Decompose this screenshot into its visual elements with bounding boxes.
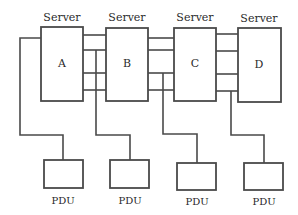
pdu-1-label: PDU (51, 195, 74, 206)
pdu-4-label: PDU (252, 196, 275, 207)
pdu-1: PDU (44, 160, 83, 206)
server-c-header: Server (176, 11, 214, 24)
pdu-2: PDU (110, 160, 149, 206)
pdu-3-box (177, 163, 216, 190)
pdu-3: PDU (177, 163, 216, 207)
server-b-label: B (123, 57, 131, 70)
interconnects-c-d (216, 34, 238, 91)
pdu-2-label: PDU (118, 195, 141, 206)
server-d-label: D (255, 58, 264, 71)
server-a-label: A (57, 57, 67, 70)
server-b-header: Server (108, 11, 146, 24)
server-c: Server C (174, 11, 216, 101)
pdu-4: PDU (244, 163, 283, 207)
interconnects-a-b (83, 35, 106, 90)
pdu-3-label: PDU (185, 196, 208, 207)
interconnects-b-c (148, 38, 174, 90)
server-c-label: C (191, 57, 199, 70)
server-a-header: Server (43, 11, 81, 24)
pdu-2-box (110, 160, 149, 188)
server-b: Server B (106, 11, 148, 101)
pdu-4-box (244, 163, 283, 190)
pdu-1-box (44, 160, 83, 188)
server-a: Server A (41, 11, 83, 101)
server-pdu-diagram: Server A Server B Server C Server D PDU … (0, 0, 298, 215)
server-d-header: Server (240, 12, 278, 25)
server-d: Server D (238, 12, 281, 102)
